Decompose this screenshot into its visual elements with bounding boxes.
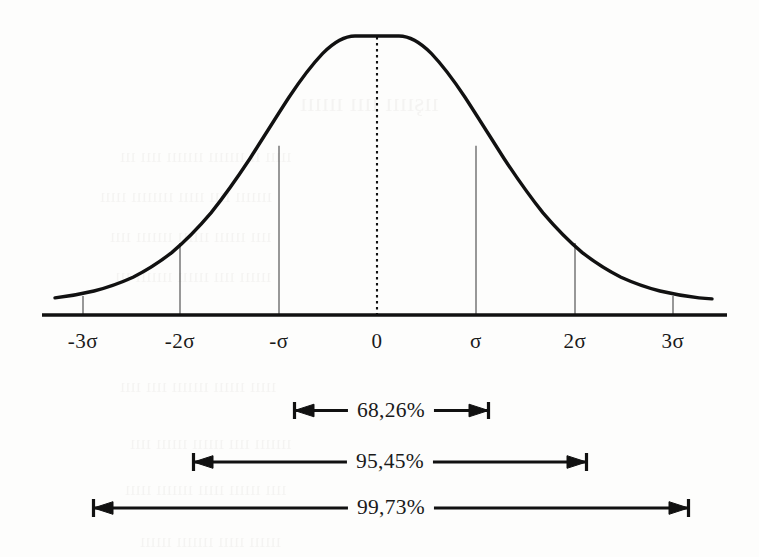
- percent-label-99: 99,73%: [348, 497, 434, 519]
- axis-label-plus-2-sigma: 2σ: [564, 331, 587, 352]
- axis-label-zero: 0: [372, 331, 383, 352]
- bell-curve: [55, 36, 712, 299]
- normal-distribution-figure: ıışıııı ıııı ııııııııııı ıı ııııııı ıııı…: [0, 0, 759, 557]
- distribution-plot: [0, 0, 759, 557]
- axis-label-minus-2-sigma: -2σ: [165, 331, 195, 352]
- percent-label-95: 95,45%: [347, 451, 433, 473]
- axis-label-minus-1-sigma: -σ: [269, 331, 288, 352]
- axis-label-plus-1-sigma: σ: [470, 331, 482, 352]
- axis-label-minus-3-sigma: -3σ: [68, 331, 98, 352]
- axis-label-plus-3-sigma: 3σ: [662, 331, 685, 352]
- percent-label-68: 68,26%: [348, 400, 434, 422]
